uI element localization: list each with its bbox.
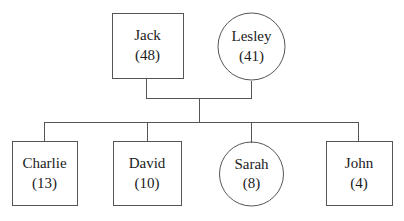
person-shape-lesley[interactable] [218,13,285,80]
person-shape-john[interactable] [327,142,393,206]
family-tree-diagram: Jack (48) Lesley (41) Charlie (13) David… [0,0,404,221]
person-shape-charlie[interactable] [13,142,78,206]
tree-connectors-and-shapes [0,0,404,221]
person-shape-jack[interactable] [113,14,184,79]
person-shape-david[interactable] [114,142,182,206]
person-shape-sarah[interactable] [220,142,284,206]
